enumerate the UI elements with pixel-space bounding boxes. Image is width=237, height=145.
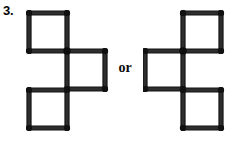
matchstick-head bbox=[180, 10, 186, 16]
matchstick-head bbox=[218, 10, 224, 16]
matchstick-head bbox=[64, 87, 70, 93]
matchstick-head bbox=[102, 86, 108, 92]
matchstick-junction-dot bbox=[179, 47, 186, 54]
right-square-top bbox=[180, 10, 224, 54]
right-square-bottom bbox=[180, 87, 224, 131]
left-square-middle bbox=[64, 48, 108, 92]
right-square-middle bbox=[143, 48, 186, 92]
matchstick-head bbox=[26, 10, 32, 16]
matchstick-head bbox=[180, 125, 186, 131]
matchstick-head bbox=[26, 87, 32, 93]
figure-left-svg bbox=[26, 9, 126, 139]
problem-number-label: 3. bbox=[3, 4, 13, 18]
left-matchstick-figure bbox=[26, 9, 126, 139]
left-square-bottom bbox=[26, 87, 70, 131]
matchstick-head bbox=[218, 48, 224, 54]
or-connector-label: or bbox=[112, 60, 138, 76]
matchstick-head bbox=[64, 10, 70, 16]
matchstick-head bbox=[180, 87, 186, 93]
left-square-top bbox=[26, 10, 70, 54]
matchstick-head bbox=[26, 125, 32, 131]
matchstick-head bbox=[102, 48, 108, 54]
matchstick-junction-dot bbox=[63, 47, 70, 54]
right-matchstick-figure bbox=[143, 9, 237, 139]
figure-right-svg bbox=[143, 9, 237, 139]
matchstick-head bbox=[218, 87, 224, 93]
matchstick-head bbox=[218, 125, 224, 131]
matchstick-head bbox=[26, 48, 32, 54]
figure-canvas: 3. or bbox=[0, 0, 237, 145]
matchstick-head bbox=[64, 125, 70, 131]
